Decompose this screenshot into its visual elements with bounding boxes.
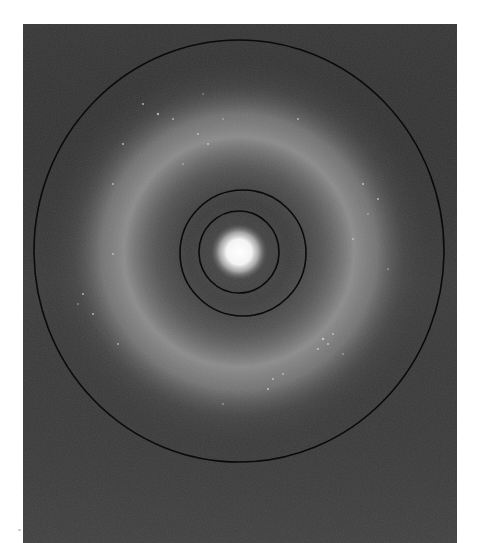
page: [0, 0, 482, 543]
dust-speck: [18, 529, 21, 531]
diffraction-pattern: [23, 24, 457, 543]
diffraction-photo: [23, 24, 457, 543]
central-spot: [211, 224, 267, 280]
